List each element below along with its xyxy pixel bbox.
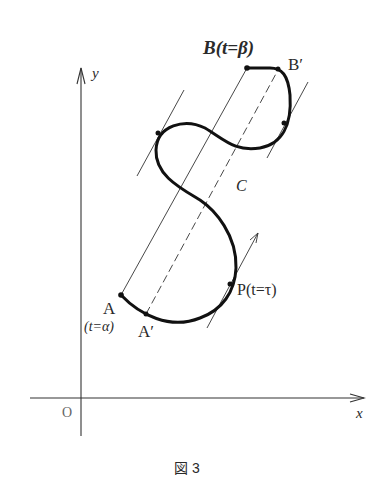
tangent-arrow-icon	[250, 233, 258, 243]
figure-3-diagram: B(t=β) B′ C A (t=α) A′ P(t=τ) y x O 図 3	[0, 0, 383, 494]
axes	[30, 68, 364, 436]
label-origin: O	[62, 406, 72, 420]
point-B-dot	[244, 65, 250, 71]
point-P-dot	[228, 282, 233, 287]
tangent-left-dot	[156, 131, 161, 136]
label-x-axis: x	[356, 406, 363, 421]
point-B-prime-dot	[276, 67, 281, 72]
label-A-param: (t=α)	[84, 320, 114, 334]
label-A: A	[103, 300, 115, 317]
tangent-right-dot	[282, 121, 287, 126]
diagram-svg	[0, 0, 383, 494]
point-A-prime-dot	[144, 312, 149, 317]
label-C: C	[236, 178, 247, 194]
label-P: P(t=τ)	[237, 282, 276, 298]
label-y-axis: y	[92, 66, 99, 81]
chord-A-prime-B-prime-dashed	[146, 70, 278, 314]
guide-lines	[121, 68, 308, 328]
label-B-prime: B′	[288, 56, 303, 73]
chord-AB	[121, 68, 247, 295]
label-B: B(t=β)	[203, 38, 254, 57]
point-A-dot	[118, 292, 124, 298]
label-A-prime: A′	[138, 323, 154, 340]
point-markers	[118, 65, 286, 316]
figure-caption: 図 3	[174, 461, 200, 475]
